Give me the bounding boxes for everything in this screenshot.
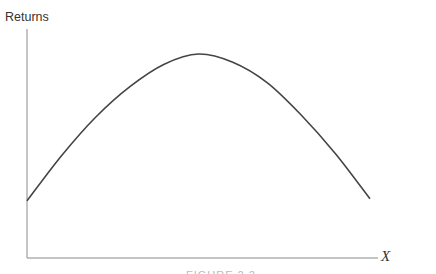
x-axis-label: X <box>381 248 390 265</box>
figure-caption: FIGURE 2.2 <box>186 268 256 274</box>
chart: Returns X FIGURE 2.2 <box>0 0 436 274</box>
chart-canvas <box>0 0 436 274</box>
returns-curve <box>27 54 370 201</box>
y-axis-label: Returns <box>5 10 49 24</box>
